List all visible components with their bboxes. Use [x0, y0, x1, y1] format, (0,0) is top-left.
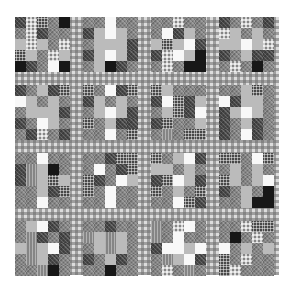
quilt-patch — [116, 96, 127, 107]
quilt-patch — [151, 175, 162, 186]
quilt-patch — [127, 28, 138, 39]
quilt-patch — [94, 17, 105, 28]
quilt-patch — [195, 129, 206, 140]
quilt-patch — [83, 175, 94, 186]
quilt-patch — [151, 232, 162, 243]
quilt-patch — [252, 265, 263, 276]
quilt-patch — [252, 197, 263, 208]
quilt-patch — [116, 265, 127, 276]
quilt-patch — [219, 265, 230, 276]
quilt-patch — [230, 118, 241, 129]
quilt-patch — [241, 197, 252, 208]
quilt-patch — [94, 96, 105, 107]
quilt-patch — [252, 96, 263, 107]
quilt-patch — [26, 164, 37, 175]
quilt-patch — [37, 50, 48, 61]
quilt-patch — [94, 39, 105, 50]
quilt-patch — [241, 50, 252, 61]
quilt-patch — [184, 197, 195, 208]
quilt-patch — [151, 17, 162, 28]
quilt-patch — [15, 197, 26, 208]
quilt-patch — [94, 50, 105, 61]
quilt-patch — [230, 61, 241, 72]
quilt-patch — [116, 221, 127, 232]
quilt-patch — [83, 186, 94, 197]
quilt-patch — [263, 129, 274, 140]
quilt-patch — [162, 61, 173, 72]
quilt-patch — [219, 164, 230, 175]
quilt-patch — [105, 107, 116, 118]
quilt-patch — [263, 221, 274, 232]
quilt-patch — [59, 197, 70, 208]
quilt-patch — [59, 164, 70, 175]
quilt-patch — [162, 232, 173, 243]
quilt-patch — [263, 243, 274, 254]
quilt-patch — [195, 197, 206, 208]
quilt-patch — [37, 28, 48, 39]
quilt-patch — [59, 28, 70, 39]
quilt-patch — [83, 118, 94, 129]
quilt-patch — [83, 96, 94, 107]
quilt-patch — [195, 254, 206, 265]
quilt-block — [15, 85, 70, 140]
quilt-patch — [230, 243, 241, 254]
quilt-patch — [241, 39, 252, 50]
quilt-patch — [184, 96, 195, 107]
quilt-patch — [263, 28, 274, 39]
quilt-block — [151, 221, 206, 276]
quilt-patch — [162, 50, 173, 61]
quilt-patch — [26, 265, 37, 276]
quilt-patch — [195, 85, 206, 96]
quilt-patch — [105, 28, 116, 39]
quilt-patch — [162, 186, 173, 197]
quilt-patch — [252, 28, 263, 39]
quilt-patch — [127, 197, 138, 208]
quilt-patch — [173, 186, 184, 197]
quilt-patch — [59, 118, 70, 129]
quilt-patch — [241, 28, 252, 39]
quilt-patch — [230, 254, 241, 265]
quilt-patch — [94, 28, 105, 39]
quilt-patch — [230, 17, 241, 28]
quilt-patch — [151, 197, 162, 208]
quilt-patch — [59, 39, 70, 50]
quilt-patch — [219, 221, 230, 232]
quilt-patch — [83, 221, 94, 232]
quilt-patch — [195, 96, 206, 107]
quilt-patch — [184, 265, 195, 276]
quilt-patch — [26, 118, 37, 129]
quilt-patch — [59, 153, 70, 164]
quilt-patch — [241, 107, 252, 118]
quilt-patch — [184, 50, 195, 61]
quilt-patch — [116, 39, 127, 50]
quilt-patch — [184, 129, 195, 140]
quilt-patch — [127, 221, 138, 232]
quilt-patch — [219, 254, 230, 265]
quilt-patch — [195, 221, 206, 232]
quilt-patch — [173, 129, 184, 140]
quilt-patch — [151, 153, 162, 164]
quilt-patch — [151, 28, 162, 39]
quilt-patch — [15, 50, 26, 61]
quilt-patch — [219, 243, 230, 254]
quilt-patch — [127, 107, 138, 118]
quilt-patch — [26, 28, 37, 39]
quilt-patch — [184, 61, 195, 72]
quilt-patch — [37, 118, 48, 129]
quilt-patch — [59, 85, 70, 96]
quilt-patch — [263, 265, 274, 276]
quilt-patch — [230, 107, 241, 118]
quilt-patch — [105, 17, 116, 28]
quilt-patch — [151, 50, 162, 61]
quilt-patch — [219, 153, 230, 164]
quilt-patch — [252, 232, 263, 243]
quilt-patch — [105, 96, 116, 107]
quilt-patch — [230, 232, 241, 243]
quilt-patch — [94, 265, 105, 276]
quilt-patch — [230, 28, 241, 39]
quilt-patch — [184, 232, 195, 243]
quilt-block — [151, 85, 206, 140]
quilt-patch — [241, 254, 252, 265]
quilt-patch — [48, 243, 59, 254]
quilt-patch — [59, 96, 70, 107]
